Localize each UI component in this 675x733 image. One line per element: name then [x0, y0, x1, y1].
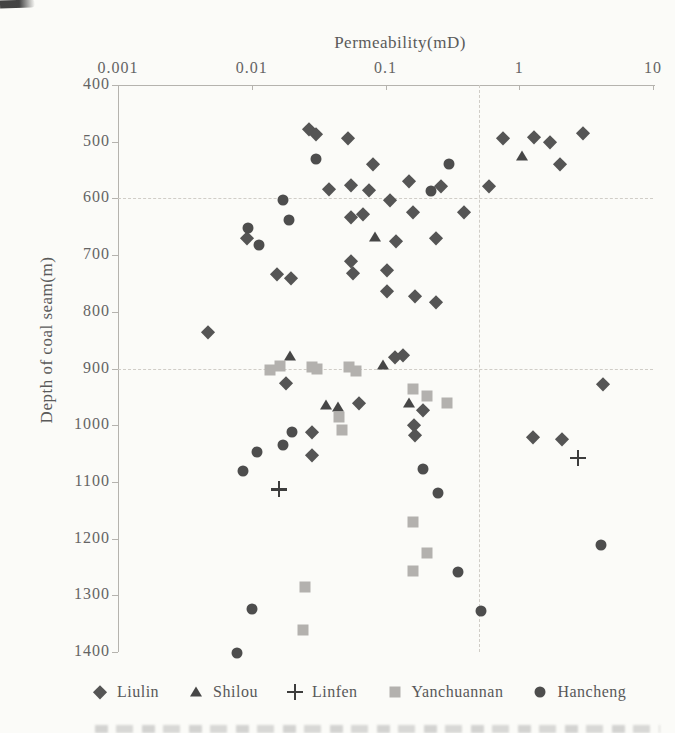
data-point-liulin	[553, 157, 566, 170]
x-axis-title: Permeability(mD)	[334, 33, 466, 53]
x-axis-tick-label: 0.1	[374, 59, 397, 77]
legend-item-liulin: Liulin	[92, 683, 159, 701]
square-marker-icon	[387, 684, 403, 700]
data-point-liulin	[430, 295, 443, 308]
data-point-shilou	[377, 360, 389, 370]
data-point-shilou	[284, 351, 296, 361]
data-point-liulin	[496, 132, 509, 145]
data-point-liulin	[366, 158, 379, 171]
data-point-yanchuannan	[334, 412, 345, 423]
data-point-liulin	[406, 205, 419, 218]
y-axis-tick	[112, 652, 118, 653]
x-axis-tick-label: 1	[515, 59, 524, 77]
data-point-hancheng	[246, 604, 257, 615]
data-point-hancheng	[287, 427, 298, 438]
data-point-liulin	[408, 289, 421, 302]
legend-label-shilou: Shilou	[213, 683, 258, 701]
legend-item-hancheng: Hancheng	[532, 683, 626, 701]
data-point-hancheng	[243, 222, 254, 233]
y-axis-tick-label: 600	[0, 188, 110, 206]
data-point-hancheng	[310, 153, 321, 164]
data-point-yanchuannan	[422, 391, 433, 402]
data-point-hancheng	[232, 648, 243, 659]
y-axis-tick	[112, 198, 118, 199]
data-point-liulin	[346, 267, 359, 280]
y-axis-tick	[112, 482, 118, 483]
x-axis-tick	[252, 85, 253, 90]
vertical-gridline-0.5	[479, 85, 480, 652]
data-point-liulin	[416, 404, 429, 417]
data-point-liulin	[279, 377, 292, 390]
data-point-liulin	[305, 449, 318, 462]
data-point-liulin	[596, 377, 609, 390]
x-axis-tick	[653, 85, 654, 90]
y-axis-tick-label: 1400	[0, 642, 110, 660]
legend-marker-linfen	[287, 684, 303, 700]
y-axis-tick-label: 1000	[0, 415, 110, 433]
legend-marker-liulin	[93, 685, 106, 698]
legend: LiulinShilouLinfenYanchuannanHancheng	[92, 681, 626, 703]
y-axis-tick	[112, 539, 118, 540]
legend-item-shilou: Shilou	[188, 683, 258, 701]
data-point-liulin	[270, 268, 283, 281]
diamond-marker-icon	[92, 684, 108, 700]
data-point-hancheng	[417, 464, 428, 475]
y-axis-tick	[112, 85, 118, 86]
x-axis-tick	[386, 85, 387, 90]
data-point-liulin	[341, 132, 354, 145]
data-point-hancheng	[277, 195, 288, 206]
data-point-hancheng	[252, 446, 263, 457]
y-axis-tick-label: 700	[0, 245, 110, 263]
data-point-liulin	[344, 254, 357, 267]
data-point-yanchuannan	[312, 363, 323, 374]
data-point-yanchuannan	[275, 361, 286, 372]
data-point-hancheng	[476, 606, 487, 617]
y-axis-tick-label: 1200	[0, 529, 110, 547]
data-point-shilou	[332, 402, 344, 412]
data-point-liulin	[457, 205, 470, 218]
legend-marker-hancheng	[535, 687, 546, 698]
cutoff-caption-text	[95, 725, 660, 733]
legend-marker-shilou	[190, 687, 202, 697]
data-point-yanchuannan	[299, 582, 310, 593]
y-axis-tick	[112, 425, 118, 426]
data-point-yanchuannan	[407, 383, 418, 394]
y-axis-tick	[112, 142, 118, 143]
data-point-hancheng	[284, 214, 295, 225]
circle-marker-icon	[532, 684, 548, 700]
x-axis-line	[118, 85, 655, 86]
data-point-shilou	[369, 231, 381, 241]
x-axis-tick-label: 10	[644, 59, 662, 77]
data-point-liulin	[284, 271, 297, 284]
data-point-liulin	[526, 430, 539, 443]
data-point-liulin	[356, 208, 369, 221]
data-point-liulin	[344, 179, 357, 192]
data-point-liulin	[352, 396, 365, 409]
data-point-yanchuannan	[442, 397, 453, 408]
legend-marker-yanchuannan	[389, 687, 400, 698]
data-point-liulin	[543, 135, 556, 148]
data-point-hancheng	[237, 465, 248, 476]
y-axis-tick-label: 1300	[0, 585, 110, 603]
y-axis-tick-label: 1100	[0, 472, 110, 490]
data-point-liulin	[576, 126, 589, 139]
data-point-liulin	[408, 428, 421, 441]
data-point-hancheng	[253, 239, 264, 250]
x-axis-tick-label: 0.01	[236, 59, 268, 77]
data-point-yanchuannan	[422, 548, 433, 559]
scan-artifact-mark	[0, 0, 35, 9]
data-point-liulin	[482, 179, 495, 192]
data-point-hancheng	[596, 540, 607, 551]
data-point-hancheng	[444, 158, 455, 169]
data-point-hancheng	[277, 440, 288, 451]
data-point-shilou	[320, 399, 332, 409]
legend-label-hancheng: Hancheng	[557, 683, 626, 701]
y-axis-tick	[112, 369, 118, 370]
data-point-liulin	[528, 130, 541, 143]
legend-label-yanchuannan: Yanchuannan	[412, 683, 504, 701]
data-point-linfen	[271, 481, 287, 497]
data-point-liulin	[362, 183, 375, 196]
legend-item-yanchuannan: Yanchuannan	[387, 683, 504, 701]
data-point-yanchuannan	[407, 516, 418, 527]
data-point-yanchuannan	[351, 365, 362, 376]
